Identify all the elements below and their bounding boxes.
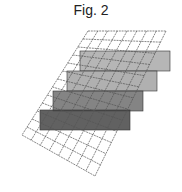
layered-grid-diagram (0, 0, 182, 192)
layer-1 (80, 51, 170, 71)
layer-2 (67, 71, 157, 91)
layer-4 (40, 110, 130, 130)
layer-3 (53, 91, 143, 111)
grid-line (83, 39, 161, 42)
